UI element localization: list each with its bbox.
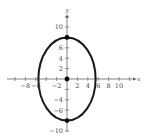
ticks xyxy=(15,17,129,131)
y-tick-label: 6 xyxy=(59,44,63,52)
x-tick-label: 8 xyxy=(107,82,111,90)
ellipse-plot: −8−6−224681010642−4−6−10 x y xyxy=(0,0,147,138)
point-center xyxy=(65,77,70,82)
x-tick-label: −6 xyxy=(31,82,41,90)
point-vertex-top xyxy=(65,35,70,40)
y-tick-label: 4 xyxy=(59,55,63,63)
y-axis-label: y xyxy=(65,6,70,14)
chart-figure: −8−6−224681010642−4−6−10 x y xyxy=(0,0,147,138)
y-tick-label: 2 xyxy=(59,65,63,73)
x-tick-label: 4 xyxy=(86,82,90,90)
x-tick-label: −2 xyxy=(52,82,62,90)
axes xyxy=(7,14,137,132)
y-tick-label: −4 xyxy=(53,96,63,104)
x-axis-label: x xyxy=(137,75,141,82)
y-axis-arrow-icon xyxy=(65,14,68,18)
y-tick-label: 10 xyxy=(55,23,63,31)
x-tick-label: 6 xyxy=(96,82,100,90)
x-tick-label: 10 xyxy=(115,82,123,90)
x-tick-label: 2 xyxy=(75,82,79,90)
x-tick-label: −8 xyxy=(21,82,31,90)
point-vertex-bottom xyxy=(65,118,70,123)
y-tick-label: −6 xyxy=(53,107,63,115)
y-tick-label: −10 xyxy=(49,127,63,135)
